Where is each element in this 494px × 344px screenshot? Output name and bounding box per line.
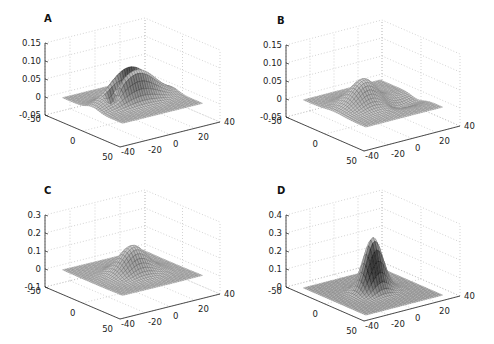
panel-a: -0.0500.050.100.15-50050-40-2002040 A xyxy=(0,0,247,172)
svg-text:-50: -50 xyxy=(268,116,282,126)
svg-text:-20: -20 xyxy=(391,149,405,159)
surface-plot-b: -0.0500.050.100.15-50050-40-2002040 xyxy=(247,2,494,174)
svg-text:-40: -40 xyxy=(365,321,379,331)
svg-text:-50: -50 xyxy=(268,286,282,296)
svg-text:40: 40 xyxy=(224,289,235,299)
svg-text:0: 0 xyxy=(70,308,75,318)
svg-text:40: 40 xyxy=(464,291,475,301)
svg-text:0.1: 0.1 xyxy=(268,264,282,274)
svg-text:0.15: 0.15 xyxy=(263,40,282,50)
svg-text:0.05: 0.05 xyxy=(263,76,282,86)
svg-text:0: 0 xyxy=(313,139,318,149)
surface-mesh xyxy=(303,79,442,127)
svg-text:0.4: 0.4 xyxy=(268,210,282,220)
svg-text:-40: -40 xyxy=(365,151,379,161)
svg-text:0.2: 0.2 xyxy=(27,228,41,238)
surface-plot-d: 00.10.20.30.4-50050-40-2002040 xyxy=(247,172,494,344)
svg-text:0.10: 0.10 xyxy=(22,56,41,66)
svg-text:0: 0 xyxy=(277,94,282,104)
panel-c: -0.100.10.20.3-50050-40-2002040 C xyxy=(0,172,247,344)
svg-text:0.1: 0.1 xyxy=(27,246,41,256)
panel-label-a: A xyxy=(44,13,52,24)
svg-text:0: 0 xyxy=(173,311,178,321)
surface-mesh xyxy=(63,67,203,124)
svg-text:0.10: 0.10 xyxy=(263,58,282,68)
surface-plot-c: -0.100.10.20.3-50050-40-2002040 xyxy=(0,172,247,344)
panel-label-b: B xyxy=(277,15,285,26)
svg-text:-50: -50 xyxy=(27,114,41,124)
panel-b: -0.0500.050.100.15-50050-40-2002040 B xyxy=(247,2,494,174)
svg-text:20: 20 xyxy=(439,136,450,146)
svg-text:-20: -20 xyxy=(148,317,162,327)
svg-text:20: 20 xyxy=(198,132,209,142)
svg-text:40: 40 xyxy=(464,121,475,131)
svg-text:-50: -50 xyxy=(27,286,41,296)
svg-text:20: 20 xyxy=(439,306,450,316)
svg-text:0: 0 xyxy=(173,139,178,149)
svg-text:0: 0 xyxy=(36,264,41,274)
panel-d: 00.10.20.30.4-50050-40-2002040 D xyxy=(247,172,494,344)
svg-text:0.3: 0.3 xyxy=(27,210,41,220)
surface-mesh xyxy=(63,245,203,295)
surface-plot-a: -0.0500.050.100.15-50050-40-2002040 xyxy=(0,0,247,172)
svg-text:0.05: 0.05 xyxy=(22,74,41,84)
panel-label-d: D xyxy=(277,185,285,196)
svg-text:0: 0 xyxy=(313,309,318,319)
svg-text:40: 40 xyxy=(224,117,235,127)
svg-text:0: 0 xyxy=(415,143,420,153)
svg-text:0: 0 xyxy=(70,136,75,146)
svg-text:50: 50 xyxy=(102,152,113,162)
svg-text:0: 0 xyxy=(36,92,41,102)
svg-text:-20: -20 xyxy=(391,319,405,329)
svg-text:0.3: 0.3 xyxy=(268,228,282,238)
svg-text:-20: -20 xyxy=(148,145,162,155)
svg-text:0.2: 0.2 xyxy=(268,246,282,256)
svg-text:0.15: 0.15 xyxy=(22,38,41,48)
svg-text:0: 0 xyxy=(415,313,420,323)
svg-text:50: 50 xyxy=(346,326,357,336)
svg-text:50: 50 xyxy=(102,324,113,334)
svg-text:50: 50 xyxy=(346,156,357,166)
svg-text:-40: -40 xyxy=(121,147,135,157)
svg-text:-40: -40 xyxy=(121,319,135,329)
panel-label-c: C xyxy=(44,185,51,196)
svg-text:20: 20 xyxy=(198,304,209,314)
